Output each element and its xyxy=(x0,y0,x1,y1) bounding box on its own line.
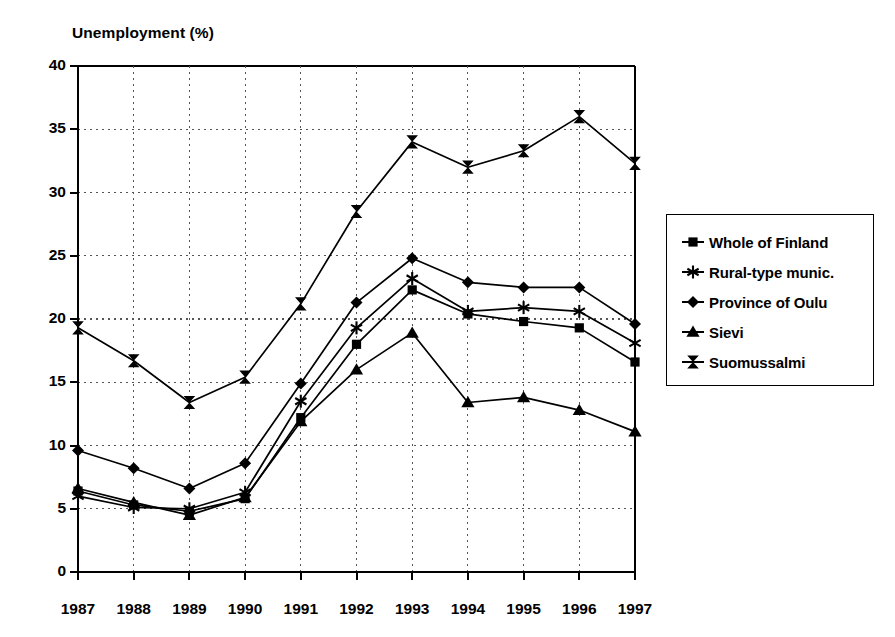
legend-item-label: Province of Oulu xyxy=(706,294,827,311)
legend-item-label: Whole of Finland xyxy=(706,234,828,251)
square-marker-icon xyxy=(688,237,697,246)
square-marker-icon xyxy=(575,323,584,332)
y-tick-label: 10 xyxy=(32,436,66,454)
diamond-marker-icon xyxy=(462,276,474,288)
x-tick-label: 1991 xyxy=(269,600,333,618)
square-marker-icon xyxy=(680,232,706,252)
square-marker-icon xyxy=(630,357,639,366)
bowtie-marker-icon xyxy=(72,321,84,334)
legend-item-province-of-oulu: Province of Oulu xyxy=(680,291,827,313)
y-tick-label: 15 xyxy=(32,372,66,390)
x-tick-label: 1987 xyxy=(46,600,110,618)
legend-item-label: Suomussalmi xyxy=(706,354,805,371)
legend-item-label: Rural-type munic. xyxy=(706,264,834,281)
legend-item-label: Sievi xyxy=(706,324,744,341)
legend-item-sievi: Sievi xyxy=(680,321,744,343)
y-tick-label: 20 xyxy=(32,309,66,327)
y-tick-label: 40 xyxy=(32,56,66,74)
triangle-marker-icon xyxy=(628,425,641,436)
diamond-marker-icon xyxy=(687,296,699,308)
diamond-marker-icon xyxy=(573,281,585,293)
bowtie-marker-icon xyxy=(184,396,196,409)
axes xyxy=(70,65,635,580)
x-tick-label: 1993 xyxy=(380,600,444,618)
x-tick-label: 1997 xyxy=(603,600,667,618)
y-tick-label: 35 xyxy=(32,119,66,137)
diamond-marker-icon xyxy=(183,483,195,495)
asterisk-marker-icon xyxy=(680,262,706,282)
bowtie-marker-icon xyxy=(629,157,641,170)
y-tick-label: 0 xyxy=(32,562,66,580)
legend-item-suomussalmi: Suomussalmi xyxy=(680,351,805,373)
triangle-marker-icon xyxy=(406,327,419,338)
x-tick-label: 1994 xyxy=(436,600,500,618)
triangle-marker-icon xyxy=(680,322,706,342)
x-tick-label: 1996 xyxy=(547,600,611,618)
diamond-marker-icon xyxy=(239,457,251,469)
triangle-marker-icon xyxy=(71,482,84,493)
legend-item-whole-of-finland: Whole of Finland xyxy=(680,231,828,253)
square-marker-icon xyxy=(352,340,361,349)
diamond-marker-icon xyxy=(128,462,140,474)
y-tick-label: 25 xyxy=(32,246,66,264)
square-marker-icon xyxy=(519,317,528,326)
bowtie-marker-icon xyxy=(574,110,586,123)
triangle-marker-icon xyxy=(350,363,363,374)
diamond-marker-icon xyxy=(295,378,307,390)
gridlines xyxy=(78,66,635,572)
y-tick-label: 30 xyxy=(32,183,66,201)
x-tick-label: 1992 xyxy=(325,600,389,618)
y-tick-label: 5 xyxy=(32,499,66,517)
chart-legend: Whole of FinlandRural-type munic.Provinc… xyxy=(666,214,874,386)
x-tick-label: 1990 xyxy=(213,600,277,618)
bowtie-marker-icon xyxy=(680,352,706,372)
x-tick-label: 1988 xyxy=(102,600,166,618)
legend-item-rural-type-munic: Rural-type munic. xyxy=(680,261,834,283)
x-tick-label: 1995 xyxy=(492,600,556,618)
diamond-marker-icon xyxy=(518,281,530,293)
x-tick-label: 1989 xyxy=(157,600,221,618)
unemployment-line-chart-figure: Unemployment (%) 40353025201510501987198… xyxy=(0,0,895,637)
triangle-marker-icon xyxy=(517,391,530,402)
diamond-marker-icon xyxy=(629,318,641,330)
square-marker-icon xyxy=(408,285,417,294)
diamond-marker-icon xyxy=(680,292,706,312)
